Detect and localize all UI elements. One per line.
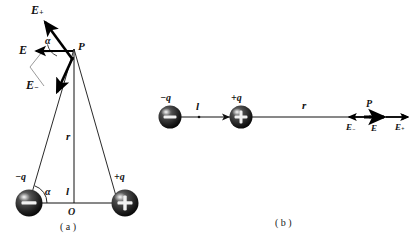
panel-a-graphics xyxy=(16,22,139,217)
panel-b-midpoint-tick xyxy=(198,116,201,119)
panel-a-charge-negative xyxy=(16,190,43,217)
panel-b-label-l: l xyxy=(196,101,199,112)
panel-a-label-e-resultant: E xyxy=(19,44,27,56)
panel-b-point-p-tick xyxy=(369,116,372,119)
panel-a-label-point-p: P xyxy=(78,41,85,52)
panel-a-label-r: r xyxy=(66,131,70,142)
panel-b-charge-positive xyxy=(230,106,253,129)
panel-b-caption: ( b ) xyxy=(275,218,292,228)
panel-a-parallelogram-edge-upper xyxy=(30,52,42,67)
dipole-figure: E+ E− E P α α r l O −q +q ( a ) −q +q l … xyxy=(0,0,418,240)
panel-a-charge-positive xyxy=(112,190,139,217)
panel-a-label-l: l xyxy=(66,186,69,197)
panel-a-line-positive-to-p xyxy=(74,49,118,203)
panel-b-label-r: r xyxy=(302,100,306,111)
panel-b-label-charge-positive: +q xyxy=(231,93,242,103)
panel-a-angle-label-p: α xyxy=(45,36,51,46)
panel-a-label-e-plus: E+ xyxy=(31,4,44,17)
panel-a-label-charge-negative: −q xyxy=(15,172,26,182)
figure-canvas xyxy=(0,0,418,240)
panel-b-label-e-minus: E− xyxy=(346,123,356,133)
panel-b-label-charge-negative: −q xyxy=(160,93,171,103)
panel-a-label-charge-positive: +q xyxy=(114,172,125,182)
panel-b-label-e-resultant: E xyxy=(371,124,377,133)
panel-b-label-point-p: P xyxy=(366,99,372,109)
panel-a-vector-e-minus xyxy=(57,57,73,92)
panel-a-label-origin: O xyxy=(68,207,75,217)
panel-a-label-e-minus: E− xyxy=(26,79,39,92)
panel-a-caption: ( a ) xyxy=(60,222,76,232)
panel-b-charge-negative xyxy=(159,106,182,129)
panel-b-label-e-plus: E+ xyxy=(395,123,405,133)
panel-a-angle-label-charge: α xyxy=(45,187,51,197)
